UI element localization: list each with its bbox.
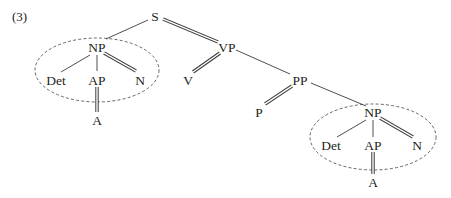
node-a-subject: A: [92, 113, 102, 128]
node-np-object: NP: [364, 105, 381, 120]
node-det-subject: Det: [46, 73, 66, 88]
edge-np-det: [61, 55, 90, 72]
edge-np2-det2: [337, 120, 366, 137]
node-np-subject: NP: [88, 40, 105, 55]
node-v: V: [183, 73, 193, 88]
edge-pp-np: [311, 83, 366, 106]
single-edges: [61, 20, 373, 137]
edge-s-np: [106, 20, 148, 39]
node-pp: PP: [292, 73, 307, 88]
node-n-subject: N: [135, 73, 145, 88]
example-number: (3): [12, 9, 27, 24]
node-vp: VP: [218, 40, 235, 55]
node-p: P: [255, 105, 263, 120]
node-ap-object: AP: [364, 138, 381, 153]
node-s: S: [151, 9, 159, 24]
node-n-object: N: [412, 138, 422, 153]
node-a-object: A: [368, 175, 378, 190]
node-ap-subject: AP: [88, 73, 105, 88]
edge-vp-pp: [236, 50, 290, 74]
syntax-tree-diagram: (3) S NP VP Det AP N A V PP P NP Det AP …: [0, 0, 451, 198]
node-det-object: Det: [321, 138, 341, 153]
